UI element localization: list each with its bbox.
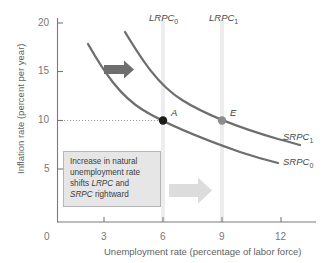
x-axis-title: Unemployment rate (percentage of labor f… [104, 247, 302, 257]
srpc1-label-text: SRPC [283, 131, 309, 142]
point-a-marker [159, 116, 167, 124]
note-line-4-suffix: rightward [93, 190, 129, 199]
x-tick-label-6: 6 [160, 232, 166, 242]
lrpc1-label-sub: 1 [234, 18, 238, 25]
lrpc-shift-arrow [169, 178, 212, 204]
srpc0-label-sub: 0 [309, 162, 313, 169]
srpc1-curve [125, 32, 300, 145]
origin-label: 0 [44, 232, 50, 242]
x-tick-label-3: 3 [101, 232, 107, 242]
srpc0-label: SRPC0 [283, 157, 313, 169]
chart-canvas [0, 0, 324, 263]
shift-explanation-note: Increase in natural unemployment rate sh… [63, 151, 161, 207]
x-tick-label-9: 9 [219, 232, 225, 242]
note-term-lrpc: LRPC [91, 179, 113, 188]
lrpc0-label-sub: 0 [174, 18, 178, 25]
y-tick-label-10: 10 [38, 115, 49, 125]
srpc1-label: SRPC1 [283, 132, 313, 144]
y-tick-label-20: 20 [38, 18, 49, 28]
note-line-3-prefix: shifts [70, 179, 91, 188]
phillips-curve-figure: Inflation rate (percent per year) 20 15 … [0, 0, 324, 263]
lrpc0-label: LRPC0 [149, 13, 178, 25]
lrpc1-label-text: LRPC [209, 12, 234, 23]
srpc-curves-group [88, 32, 300, 163]
x-tick-label-12: 12 [275, 232, 286, 242]
srpc0-curve [88, 44, 278, 163]
point-a-label: A [171, 108, 177, 118]
note-line-3: shifts LRPC and [70, 179, 155, 190]
note-line-4: SRPC rightward [70, 190, 155, 201]
note-line-1: Increase in natural [70, 157, 155, 168]
note-term-srpc: SRPC [70, 190, 93, 199]
srpc1-label-sub: 1 [309, 137, 313, 144]
lrpc0-label-text: LRPC [149, 12, 174, 23]
lrpc1-label: LRPC1 [209, 13, 238, 25]
srpc0-label-text: SRPC [283, 156, 309, 167]
y-axis-title: Inflation rate (percent per year) [16, 34, 26, 184]
y-tick-label-15: 15 [38, 66, 49, 76]
point-e-marker [218, 116, 226, 124]
point-e-label: E [230, 108, 236, 118]
y-tick-label-5: 5 [44, 164, 50, 174]
note-line-3-suffix: and [113, 179, 129, 188]
note-line-2: unemployment rate [70, 168, 155, 179]
